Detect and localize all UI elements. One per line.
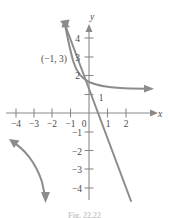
figure-caption: Fig. 22.22 <box>0 211 169 218</box>
y-axis-arrow-icon <box>86 24 93 32</box>
x-axis-arrow-icon <box>150 110 158 117</box>
math-figure: −4 −3 −2 −1 0 1 2 4 3 2 −1 −2 −3 −4 1 x … <box>0 0 169 218</box>
detached-lower-left-curve <box>12 142 45 196</box>
x-tick-label--4: −4 <box>11 119 21 129</box>
x-tick-label-0: 0 <box>82 119 87 129</box>
y-tick-label-2: 2 <box>75 71 80 81</box>
y-tick-label--2: −2 <box>72 147 82 157</box>
y-tick-label--1: −1 <box>72 128 82 138</box>
x-tick-label-2: 2 <box>124 119 129 129</box>
y-tick-label-3: 3 <box>75 53 80 63</box>
x-tick-label-1: 1 <box>106 119 111 129</box>
point-annotation-label: (−1, 3) <box>41 54 67 65</box>
detached-curve-lower-arrow-icon <box>41 192 50 203</box>
coordinate-plot: −4 −3 −2 −1 0 1 2 4 3 2 −1 −2 −3 −4 1 x … <box>0 0 169 218</box>
inline-label-one: 1 <box>99 93 104 103</box>
decay-curve-right-arrow-icon <box>144 85 154 93</box>
y-tick-label-4: 4 <box>75 34 80 44</box>
y-axis-label: y <box>89 12 95 22</box>
y-tick-label--4: −4 <box>72 184 82 194</box>
x-tick-label--2: −2 <box>47 119 57 129</box>
x-axis-label: x <box>157 109 163 119</box>
y-tick-label--3: −3 <box>72 165 82 175</box>
x-tick-label--3: −3 <box>29 119 39 129</box>
